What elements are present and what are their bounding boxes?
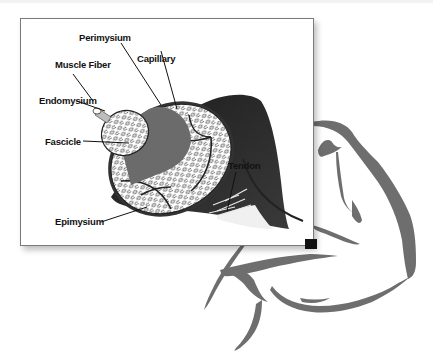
label-tendon: Tendon: [228, 160, 260, 171]
label-endomysium: Endomysium: [39, 95, 97, 106]
label-muscle-fiber: Muscle Fiber: [55, 59, 111, 70]
card-corner-mark: [305, 239, 317, 249]
label-fascicle: Fascicle: [45, 136, 81, 147]
label-perimysium: Perimysium: [79, 32, 131, 43]
label-capillary: Capillary: [137, 53, 175, 64]
label-epimysium: Epimysium: [55, 216, 104, 227]
diagram-card: Perimysium Capillary Muscle Fiber Endomy…: [20, 18, 314, 246]
diagram-stage: Perimysium Capillary Muscle Fiber Endomy…: [0, 0, 433, 358]
